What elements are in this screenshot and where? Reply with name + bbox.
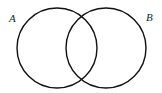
set-a-circle (17, 8, 97, 88)
set-b-label: B (146, 11, 153, 23)
set-a-label: A (8, 12, 16, 24)
set-b-circle (66, 8, 146, 88)
venn-diagram: A B (0, 0, 162, 93)
